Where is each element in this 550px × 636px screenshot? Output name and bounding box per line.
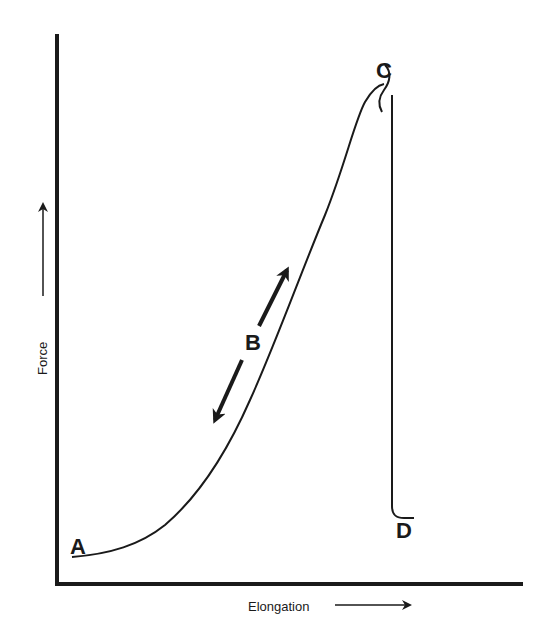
rupture-drop-line [392,95,414,518]
point-label-d: D [396,518,412,543]
force-elongation-curve [72,84,384,557]
point-label-c: C [376,58,392,83]
y-axis-label: Force [35,342,50,375]
x-axis-label: Elongation [248,599,309,614]
load-arrow-up [259,270,287,326]
force-elongation-chart: A B C D Force Elongation [0,0,550,636]
unload-arrow-down [215,360,242,420]
point-label-b: B [245,330,261,355]
point-label-a: A [70,534,86,559]
